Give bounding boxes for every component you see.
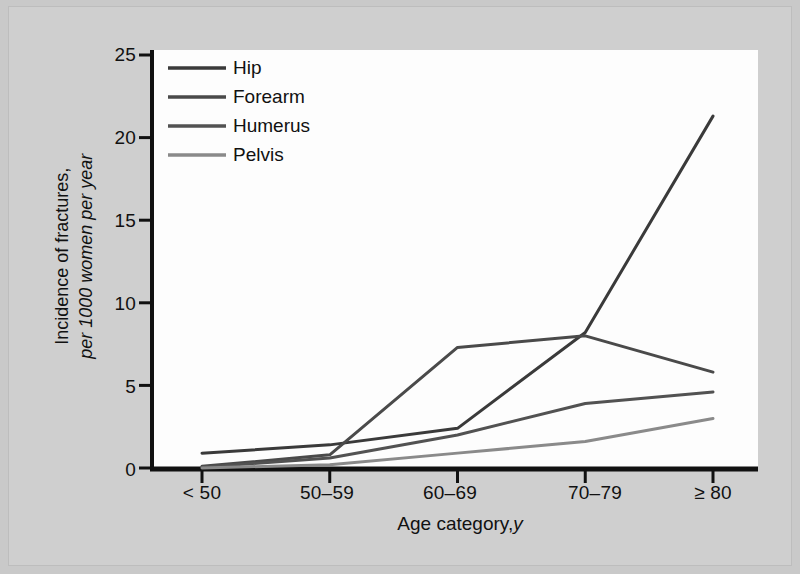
series-line-hip [202, 116, 713, 453]
y-tick-label-0: 0 [96, 459, 136, 481]
y-tick-label-15: 15 [96, 210, 136, 232]
axes [150, 50, 758, 469]
x-tick-label-60-69: 60–69 [390, 482, 510, 504]
legend-label-hip: Hip [233, 57, 262, 79]
x-tick-label-80-plus: ≥ 80 [653, 482, 773, 504]
x-axis-title: Age category,y [250, 513, 670, 535]
x-axis-title-unit: y [513, 513, 523, 534]
x-axis-title-text: Age category, [397, 513, 513, 534]
x-tick-label-50-59: 50–59 [267, 482, 387, 504]
legend-label-humerus: Humerus [233, 115, 310, 137]
x-tick-label-under-50: < 50 [142, 482, 262, 504]
y-tick-label-10: 10 [96, 293, 136, 315]
figure-container: 25 20 15 10 5 0 < 50 50–59 60–69 70–79 ≥… [0, 0, 800, 574]
legend-label-forearm: Forearm [233, 86, 305, 108]
y-axis-title-line1: Incidence of fractures, [50, 106, 74, 406]
legend-label-pelvis: Pelvis [233, 144, 284, 166]
y-axis-title: Incidence of fractures, per 1000 women p… [50, 106, 99, 406]
y-axis-title-line2: per 1000 women per year [74, 106, 98, 406]
y-tick-label-25: 25 [96, 44, 136, 66]
data-series-group [202, 116, 713, 468]
y-tick-label-5: 5 [96, 376, 136, 398]
legend-swatch-group [168, 68, 226, 155]
y-tick-label-20: 20 [96, 127, 136, 149]
x-tick-label-70-79: 70–79 [535, 482, 655, 504]
